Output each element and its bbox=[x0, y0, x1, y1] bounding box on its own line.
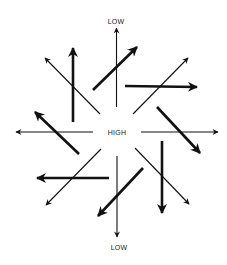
high-label-center: HIGH bbox=[108, 129, 126, 136]
thick-arrow-right bbox=[125, 86, 197, 87]
low-label-bottom: LOW bbox=[111, 244, 128, 251]
thick-arrow-sw bbox=[98, 168, 143, 216]
thick-arrow-ne bbox=[93, 47, 137, 90]
thick-arrow-se bbox=[157, 107, 200, 153]
low-label-top: LOW bbox=[108, 18, 125, 25]
